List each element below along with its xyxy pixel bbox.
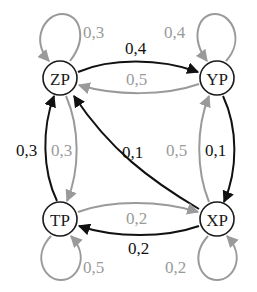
- edge-label-xp-self: 0,2: [165, 258, 186, 277]
- edge-label-tp-zp: 0,3: [16, 141, 37, 160]
- edge-label-tp-self: 0,5: [83, 258, 104, 277]
- edge-label-zp-tp: 0,3: [51, 141, 72, 160]
- node-label-xp: XP: [206, 211, 228, 230]
- edge-xp-yp: 0,5: [166, 96, 209, 202]
- edge-yp-self: 0,4: [164, 14, 235, 61]
- edge-label-yp-self: 0,4: [164, 23, 186, 42]
- edge-label-zp-yp: 0,4: [125, 39, 147, 58]
- edge-label-yp-xp: 0,1: [205, 141, 226, 160]
- edge-label-zp-self: 0,3: [83, 23, 104, 42]
- node-label-yp: YP: [206, 70, 228, 89]
- edge-yp-zp: 0,5: [79, 70, 199, 94]
- node-zp: ZP: [43, 61, 77, 95]
- node-tp: TP: [43, 202, 77, 236]
- edge-label-xp-tp: 0,2: [128, 239, 149, 258]
- edge-yp-xp: 0,1: [205, 96, 234, 202]
- edge-xp-tp: 0,2: [79, 226, 199, 258]
- edge-zp-yp: 0,4: [78, 39, 198, 73]
- edge-tp-self: 0,5: [41, 236, 104, 280]
- node-yp: YP: [200, 61, 234, 95]
- node-label-zp: ZP: [50, 70, 70, 89]
- edge-tp-xp: 0,2: [78, 203, 198, 228]
- node-xp: XP: [200, 202, 234, 236]
- edge-zp-tp: 0,3: [51, 96, 77, 201]
- edge-label-xp-zp: 0,1: [122, 143, 143, 162]
- edge-label-tp-xp: 0,2: [126, 209, 147, 228]
- node-label-tp: TP: [50, 211, 70, 230]
- transition-diagram: 0,3 0,4 0,5 0,2 0,4 0,5 0,3 0,3 0,1 0,5: [0, 0, 257, 292]
- edge-zp-self: 0,3: [40, 14, 104, 61]
- edge-label-yp-zp: 0,5: [126, 70, 147, 89]
- edge-label-xp-yp: 0,5: [166, 141, 187, 160]
- edge-xp-self: 0,2: [165, 236, 237, 280]
